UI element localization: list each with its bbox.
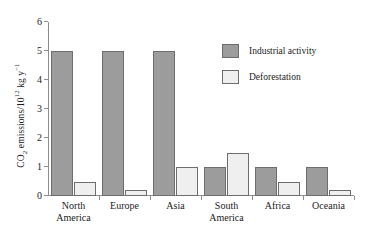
bar-south-america-deforestation [227,153,249,197]
bar-europe-industrial-activity [102,51,124,196]
bar-europe-deforestation [125,190,147,196]
x-category-label-north-america: NorthAmerica [48,200,99,223]
x-category-line-2: America [201,212,252,224]
x-category-label-asia: Asia [150,200,201,212]
legend-swatch-industrial-activity [222,44,239,58]
x-category-label-oceania: Oceania [303,200,354,212]
bar-asia-deforestation [176,167,198,196]
x-category-label-africa: Africa [252,200,303,212]
x-category-line-1: Africa [252,200,303,212]
legend-swatch-deforestation [222,70,239,84]
y-axis-title-subscript: 2 [21,151,29,155]
x-category-label-south-america: SouthAmerica [201,200,252,223]
bar-asia-industrial-activity [153,51,175,196]
x-category-line-1: Oceania [303,200,354,212]
y-tick-label-3: 3 [28,104,42,114]
y-axis-title-prefix: CO [16,154,26,167]
y-tick-6 [44,21,48,22]
x-category-line-2: America [48,212,99,224]
bar-north-america-deforestation [74,182,96,197]
y-axis-title-unit: kg y [16,71,26,91]
y-axis-line [48,22,49,196]
y-tick-label-2: 2 [28,133,42,143]
y-axis-title-unit-exponent: −1 [13,63,20,70]
y-axis-title-mid: emissions/10 [16,97,26,150]
x-category-line-1: Asia [150,200,201,212]
legend-label-industrial-activity: Industrial activity [249,46,316,56]
co2-emissions-bar-chart: CO2 emissions/1012 kg y−1 0123456 NorthA… [0,0,366,252]
y-tick-1 [44,166,48,167]
x-category-label-europe: Europe [99,200,150,212]
bar-africa-industrial-activity [255,167,277,196]
x-category-line-1: North [48,200,99,212]
y-tick-0 [44,195,48,196]
bar-oceania-deforestation [329,190,351,196]
y-tick-label-6: 6 [28,17,42,27]
bar-africa-deforestation [278,182,300,197]
y-tick-label-0: 0 [28,191,42,201]
y-tick-label-1: 1 [28,162,42,172]
y-tick-label-5: 5 [28,46,42,56]
y-tick-3 [44,108,48,109]
x-tick-5 [354,196,355,200]
y-tick-4 [44,79,48,80]
y-axis-title: CO2 emissions/1012 kg y−1 [13,21,28,211]
x-category-line-1: Europe [99,200,150,212]
y-axis-title-exponent: 12 [13,90,20,97]
bar-south-america-industrial-activity [204,167,226,196]
legend-item-deforestation: Deforestation [222,70,316,84]
chart-legend: Industrial activity Deforestation [222,44,316,96]
legend-label-deforestation: Deforestation [249,72,301,82]
legend-item-industrial-activity: Industrial activity [222,44,316,58]
x-category-line-1: South [201,200,252,212]
y-tick-label-4: 4 [28,75,42,85]
bar-north-america-industrial-activity [51,51,73,196]
y-tick-5 [44,50,48,51]
bar-oceania-industrial-activity [306,167,328,196]
y-tick-2 [44,137,48,138]
